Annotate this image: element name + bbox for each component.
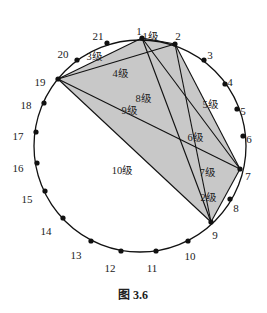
level-label-5: 5级 — [202, 99, 218, 110]
level-label-1: 1级 — [142, 31, 158, 42]
level-label-3: 3级 — [86, 51, 102, 62]
vertex-label-15: 15 — [22, 193, 34, 205]
vertex-label-8: 8 — [233, 202, 239, 214]
level-label-8: 8级 — [135, 93, 151, 104]
vertex-dot-13 — [88, 238, 93, 243]
vertex-dot-5 — [234, 106, 239, 111]
vertex-label-1: 1 — [136, 25, 142, 37]
figure-caption: 图 3.6 — [118, 288, 148, 302]
level-label-10: 10级 — [112, 165, 134, 176]
vertex-dot-16 — [34, 160, 39, 165]
vertex-label-11: 11 — [147, 262, 158, 274]
vertex-label-21: 21 — [93, 30, 104, 42]
circle-diagram: 123456789101112131415161718192021 1级2级3级… — [0, 0, 267, 313]
vertex-dot-8 — [227, 196, 232, 201]
vertex-label-13: 13 — [71, 249, 83, 261]
vertex-dot-17 — [33, 129, 38, 134]
vertex-label-16: 16 — [13, 162, 25, 174]
vertex-label-9: 9 — [212, 229, 218, 241]
vertex-dot-14 — [60, 215, 65, 220]
vertex-dot-10 — [185, 238, 190, 243]
vertex-label-17: 17 — [13, 130, 25, 142]
vertex-label-3: 3 — [207, 49, 213, 61]
vertex-label-19: 19 — [35, 76, 47, 88]
vertex-label-20: 20 — [58, 48, 70, 60]
vertex-label-14: 14 — [41, 225, 53, 237]
vertex-dot-18 — [41, 100, 46, 105]
vertex-label-18: 18 — [21, 99, 33, 111]
vertex-dot-6 — [240, 133, 245, 138]
vertex-label-12: 12 — [105, 262, 116, 274]
vertex-label-5: 5 — [240, 105, 246, 117]
vertex-label-7: 7 — [245, 170, 251, 182]
vertex-dot-19 — [55, 76, 60, 81]
level-label-6: 6级 — [187, 132, 203, 143]
vertex-dot-2 — [172, 41, 177, 46]
vertex-dot-11 — [153, 248, 158, 253]
level-label-4: 4级 — [112, 68, 128, 79]
vertex-label-2: 2 — [175, 30, 181, 42]
vertex-dot-21 — [104, 40, 109, 45]
vertex-dot-12 — [118, 248, 123, 253]
vertex-label-6: 6 — [246, 133, 252, 145]
vertex-label-4: 4 — [227, 76, 233, 88]
level-label-2: 2级 — [200, 192, 216, 203]
vertex-label-10: 10 — [185, 250, 197, 262]
vertex-dot-3 — [201, 57, 206, 62]
level-label-7: 7级 — [199, 167, 215, 178]
level-label-9: 9级 — [121, 105, 137, 116]
vertex-dot-15 — [42, 188, 47, 193]
vertex-dot-20 — [74, 57, 79, 62]
vertex-dot-7 — [237, 166, 242, 171]
vertex-dot-9 — [208, 219, 213, 224]
